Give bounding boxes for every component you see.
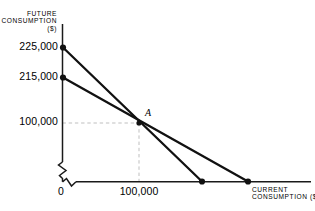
endpoint-dot-y-215000 bbox=[60, 74, 66, 80]
x-tick-label-100000: 100,000 bbox=[108, 186, 170, 198]
y-axis-title: FUTURE CONSUMPTION ($) bbox=[0, 10, 57, 32]
origin-label: 0 bbox=[58, 186, 64, 198]
y-tick-label-100000: 100,000 bbox=[0, 116, 58, 128]
budget-line-flat bbox=[63, 78, 248, 182]
chart-figure: FUTURE CONSUMPTION ($) 225,000 215,000 1… bbox=[0, 0, 315, 211]
point-a-marker bbox=[136, 120, 141, 125]
budget-line-steep bbox=[63, 48, 202, 182]
endpoint-dot-x-steep bbox=[199, 178, 205, 184]
endpoint-dot-y-225000 bbox=[60, 44, 66, 50]
point-a-label: A bbox=[145, 107, 151, 118]
y-tick-label-225000: 225,000 bbox=[0, 41, 58, 53]
x-axis-title: CURRENT CONSUMPTION ($) bbox=[252, 186, 315, 201]
y-tick-label-215000: 215,000 bbox=[0, 71, 58, 83]
y-axis-break-icon bbox=[59, 162, 67, 182]
endpoint-dot-x-flat bbox=[245, 178, 251, 184]
x-axis-break-icon bbox=[63, 179, 77, 187]
